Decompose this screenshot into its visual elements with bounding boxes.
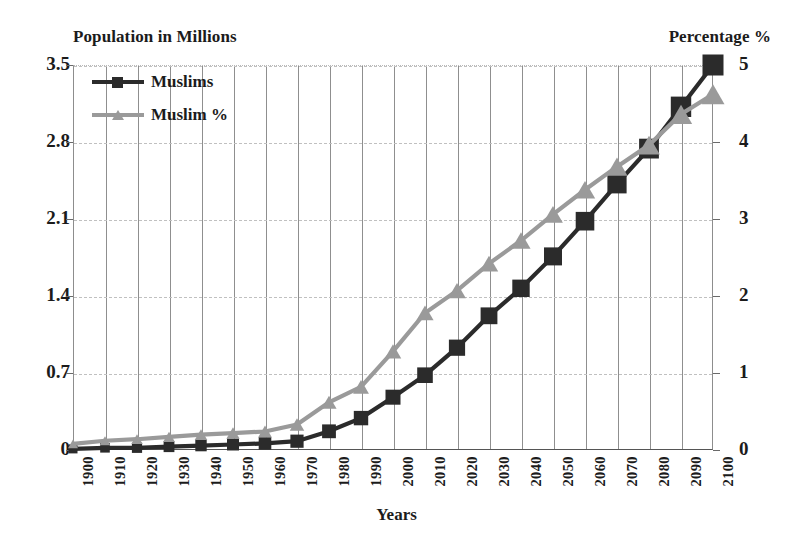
vertical-gridline	[426, 66, 427, 449]
y-axis-right-tick-label: 4	[739, 131, 749, 150]
x-axis-tick-label: 2020	[464, 456, 481, 487]
vertical-gridline	[362, 66, 363, 449]
x-axis-tick-label: 1980	[336, 456, 353, 487]
x-axis-tick-label: 1970	[304, 456, 321, 487]
y-axis-left-tick	[66, 65, 73, 66]
legend-item-2[interactable]: Muslim %	[92, 105, 228, 125]
x-axis-tick-label: 2070	[624, 456, 641, 487]
vertical-gridline	[586, 66, 587, 449]
horizontal-gridline	[74, 66, 712, 67]
chart-legend: MuslimsMuslim %	[92, 72, 228, 125]
y-axis-right-tick	[713, 65, 720, 66]
legend-square-marker-icon	[92, 74, 144, 90]
x-axis-tick-label: 2060	[592, 456, 609, 487]
vertical-gridline	[682, 66, 683, 449]
legend-item-label: Muslims	[151, 72, 213, 92]
y-axis-left-tick	[66, 450, 73, 451]
x-axis-tick-label: 2050	[560, 456, 577, 487]
y-axis-right-tick-label: 5	[739, 54, 749, 73]
y-axis-left-tick-label: 0	[61, 439, 71, 458]
y-axis-left-tick	[66, 142, 73, 143]
x-axis-tick-label: 1920	[144, 456, 161, 487]
horizontal-gridline	[74, 374, 712, 375]
y-axis-left-tick-label: 2.1	[46, 208, 70, 227]
vertical-gridline	[298, 66, 299, 449]
legend-item-label: Muslim %	[151, 105, 228, 125]
x-axis-tick-label: 1940	[208, 456, 225, 487]
x-axis-tick-label: 1930	[176, 456, 193, 487]
horizontal-gridline	[74, 297, 712, 298]
vertical-gridline	[330, 66, 331, 449]
vertical-gridline	[522, 66, 523, 449]
y-axis-left-tick	[66, 296, 73, 297]
horizontal-gridline	[74, 143, 712, 144]
x-axis-title: Years	[0, 505, 793, 525]
vertical-gridline	[490, 66, 491, 449]
legend-triangle-marker-icon	[92, 107, 144, 123]
y-axis-right-tick	[713, 142, 720, 143]
vertical-gridline	[554, 66, 555, 449]
x-axis-tick-label: 1910	[112, 456, 129, 487]
x-axis-tick-label: 2080	[656, 456, 673, 487]
legend-item-1[interactable]: Muslims	[92, 72, 228, 92]
vertical-gridline	[458, 66, 459, 449]
vertical-gridline	[650, 66, 651, 449]
left-axis-title: Population in Millions	[73, 27, 237, 47]
y-axis-left-tick	[66, 373, 73, 374]
y-axis-right-tick	[713, 373, 720, 374]
x-axis-tick-label: 2090	[688, 456, 705, 487]
y-axis-left-tick	[66, 219, 73, 220]
y-axis-right-tick-label: 3	[739, 208, 749, 227]
x-axis-tick-label: 1900	[80, 456, 97, 487]
x-axis-tick-label: 1960	[272, 456, 289, 487]
y-axis-right-tick-label: 1	[739, 362, 749, 381]
vertical-gridline	[266, 66, 267, 449]
y-axis-left-tick-label: 2.8	[46, 131, 70, 150]
y-axis-right-tick	[713, 219, 720, 220]
y-axis-right-tick-label: 0	[739, 439, 749, 458]
vertical-gridline	[618, 66, 619, 449]
x-axis-tick-label: 2000	[400, 456, 417, 487]
x-axis-tick-label: 1990	[368, 456, 385, 487]
x-axis-tick-label: 1950	[240, 456, 257, 487]
x-axis-tick-label: 2100	[720, 456, 737, 487]
x-axis-tick-label: 2040	[528, 456, 545, 487]
y-axis-left-tick-label: 0.7	[46, 362, 70, 381]
y-axis-left-tick-label: 3.5	[46, 54, 70, 73]
y-axis-right-tick	[713, 450, 720, 451]
horizontal-gridline	[74, 220, 712, 221]
right-axis-title: Percentage %	[669, 27, 771, 47]
y-axis-right-tick	[713, 296, 720, 297]
y-axis-right-tick-label: 2	[739, 285, 749, 304]
chart-container: Population in Millions Percentage % 00.7…	[0, 0, 793, 548]
x-axis-tick-label: 2030	[496, 456, 513, 487]
y-axis-left-tick-label: 1.4	[46, 285, 70, 304]
x-axis-tick-label: 2010	[432, 456, 449, 487]
vertical-gridline	[394, 66, 395, 449]
vertical-gridline	[234, 66, 235, 449]
